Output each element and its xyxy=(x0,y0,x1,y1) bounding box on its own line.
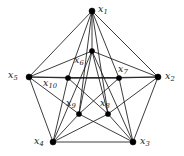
vertex-label-subscript-x2: 2 xyxy=(171,75,175,83)
vertex-label-x3: x3 xyxy=(140,136,150,146)
vertex-label-subscript-x4: 4 xyxy=(40,140,44,148)
vertex-label-subscript-x7: 7 xyxy=(124,68,128,76)
vertex-label-x2: x2 xyxy=(165,71,175,81)
vertex-label-base-x6: x xyxy=(74,54,79,65)
vertex-label-subscript-x3: 3 xyxy=(146,140,150,148)
graph-canvas xyxy=(0,0,184,156)
vertex-label-base-x10: x xyxy=(43,77,48,88)
vertex-label-subscript-x1: 1 xyxy=(104,8,108,16)
vertex-label-x1: x1 xyxy=(98,4,108,14)
vertex-label-x7: x7 xyxy=(118,64,128,74)
graph-edge-x4-x8 xyxy=(53,114,108,142)
vertex-label-x5: x5 xyxy=(8,70,18,80)
vertex-label-x6: x6 xyxy=(74,55,84,65)
graph-vertex-x10 xyxy=(65,75,70,80)
vertex-label-base-x1: x xyxy=(98,3,103,14)
graph-vertex-x3 xyxy=(130,139,136,145)
graph-edge-x4-x9 xyxy=(53,114,79,142)
vertex-label-base-x2: x xyxy=(165,70,170,81)
vertex-label-base-x7: x xyxy=(118,63,123,74)
vertex-label-x4: x4 xyxy=(34,136,44,146)
graph-vertex-x9 xyxy=(76,111,81,116)
vertex-label-base-x3: x xyxy=(140,135,145,146)
graph-vertex-x7 xyxy=(116,75,121,80)
graph-edge-x3-x8 xyxy=(108,114,133,142)
graph-vertex-x1 xyxy=(89,8,95,14)
graph-edge-x2-x10 xyxy=(68,77,158,78)
graph-vertex-x8 xyxy=(105,111,110,116)
graph-edge-x3-x9 xyxy=(79,114,133,142)
vertex-label-subscript-x8: 8 xyxy=(106,102,110,110)
vertex-label-subscript-x9: 9 xyxy=(72,102,76,110)
vertex-label-subscript-x6: 6 xyxy=(80,59,84,67)
graph-vertex-x6 xyxy=(89,48,94,53)
vertex-label-x10: x10 xyxy=(43,78,57,88)
vertex-label-base-x5: x xyxy=(8,69,13,80)
graph-diagram: x1x2x3x4x5x6x7x8x9x10 xyxy=(0,0,184,156)
graph-vertex-x4 xyxy=(50,139,56,145)
vertex-label-subscript-x5: 5 xyxy=(14,74,18,82)
vertex-label-base-x9: x xyxy=(66,97,71,108)
vertex-label-subscript-x10: 10 xyxy=(49,82,58,90)
graph-vertex-x5 xyxy=(26,74,32,80)
vertex-label-x9: x9 xyxy=(66,98,76,108)
graph-edge-x5-x1 xyxy=(29,11,92,77)
vertex-label-base-x8: x xyxy=(100,97,105,108)
graph-vertex-x2 xyxy=(155,74,161,80)
vertex-label-base-x4: x xyxy=(34,135,39,146)
graph-edge-x3-x7 xyxy=(119,78,133,142)
vertex-label-x8: x8 xyxy=(100,98,110,108)
